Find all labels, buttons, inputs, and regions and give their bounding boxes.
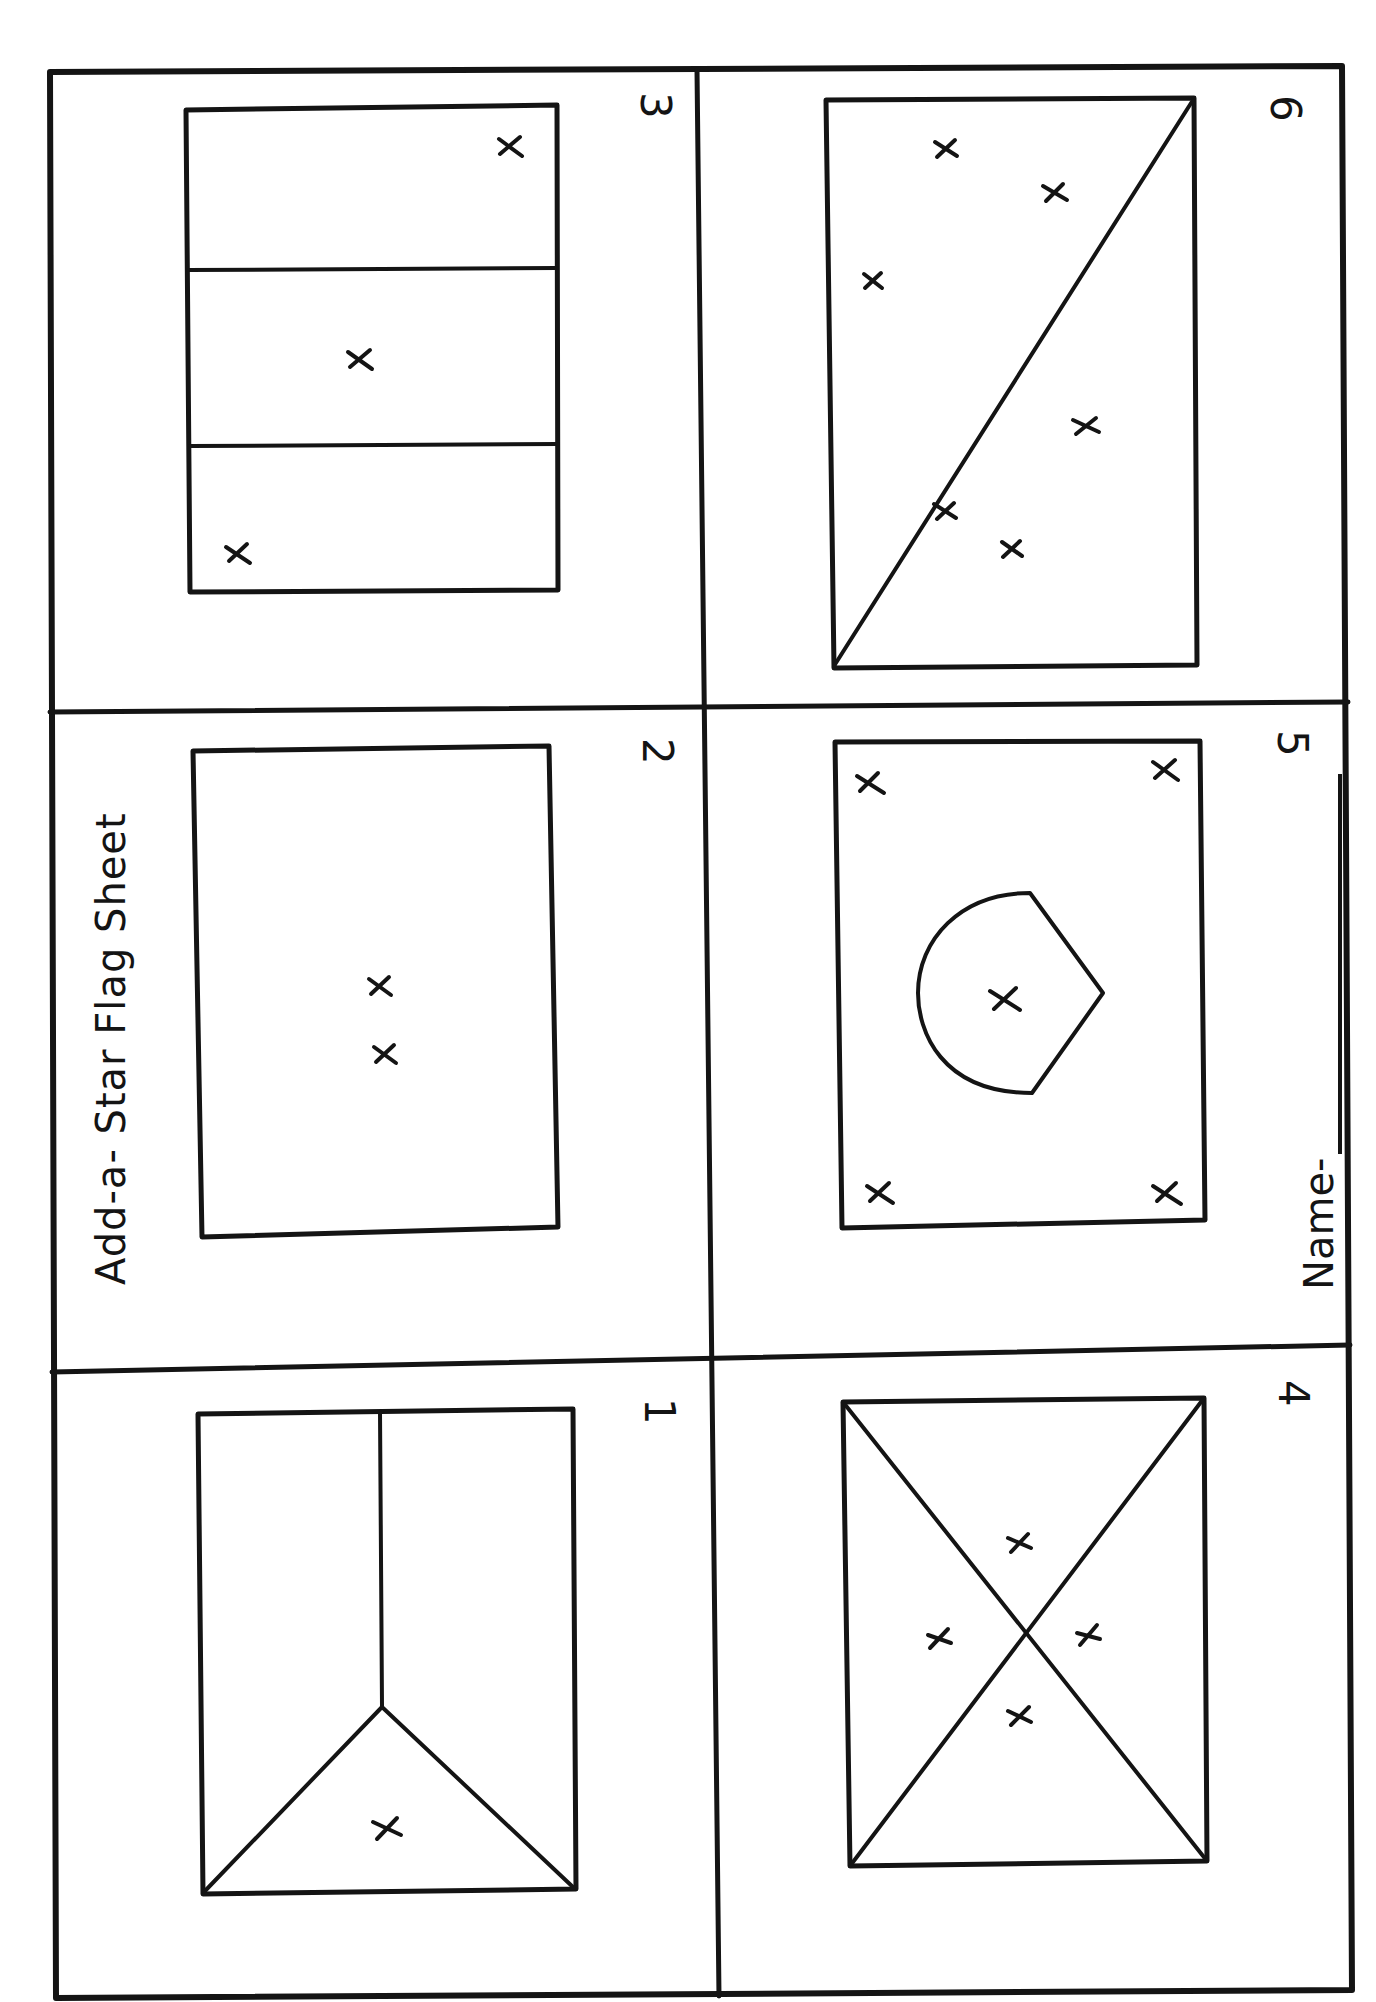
- panel-1-flag: [198, 1409, 576, 1894]
- panel-number-5: 5: [1268, 730, 1317, 757]
- panel-number-6: 6: [1261, 95, 1310, 122]
- name-field[interactable]: Name-: [1296, 774, 1342, 1290]
- star-mark: [864, 140, 1099, 557]
- star-mark: [373, 1818, 401, 1839]
- sheet-title: Add-a- Star Flag Sheet: [88, 812, 134, 1285]
- name-label: Name-: [1296, 1158, 1342, 1290]
- panel-2-flag: [193, 746, 558, 1237]
- panel-number-4: 4: [1269, 1380, 1318, 1407]
- divider-horizontal-top: [50, 702, 1348, 712]
- flag-sheet-drawing: [0, 0, 1376, 2002]
- divider-horizontal-bottom: [52, 1345, 1350, 1372]
- panel-4-flag: [843, 1398, 1207, 1866]
- panel-3-flag: [186, 105, 558, 592]
- panel-number-1: 1: [635, 1398, 684, 1425]
- panel-5-flag: [835, 741, 1205, 1228]
- grid-dividers: [50, 70, 1350, 1996]
- star-mark: [857, 760, 1181, 1204]
- panel-number-3: 3: [631, 92, 680, 119]
- divider-vertical: [697, 70, 719, 1996]
- name-input-line[interactable]: [1304, 774, 1342, 1154]
- star-mark: [226, 137, 522, 563]
- star-mark: [369, 977, 396, 1063]
- panel-number-2: 2: [633, 738, 682, 765]
- panel-6-flag: [826, 98, 1197, 668]
